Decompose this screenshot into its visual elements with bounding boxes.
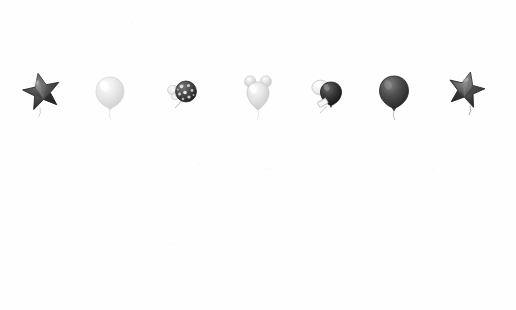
dotted-ball-body	[176, 81, 197, 102]
paper-speck	[198, 163, 200, 165]
paper-speck	[340, 267, 342, 269]
object-dotted-ball	[148, 62, 212, 122]
star-string	[469, 106, 471, 115]
balloon-dark-body	[380, 76, 409, 111]
paper-speck	[131, 22, 133, 24]
ball-string	[175, 101, 181, 108]
star-body	[20, 70, 63, 111]
paper-speck	[436, 180, 438, 182]
object-star-dark-left	[10, 62, 74, 122]
paper-speck	[73, 226, 75, 228]
paper-speck	[270, 168, 272, 170]
paper-speck	[345, 268, 347, 270]
object-paired-balloons	[293, 62, 357, 122]
balloon-knot	[108, 108, 111, 111]
object-mouse-head-balloon	[226, 62, 290, 122]
object-balloon-light	[78, 63, 142, 123]
mouse-head-body	[245, 76, 272, 110]
image-canvas	[0, 0, 516, 310]
star-body	[445, 68, 488, 109]
mouse-string	[257, 111, 259, 120]
paper-speck	[172, 243, 174, 245]
balloon-string	[109, 111, 111, 120]
star-string	[39, 108, 41, 117]
balloon-dark-knot	[392, 108, 396, 111]
object-star-dark-right	[434, 60, 498, 120]
paper-speck	[432, 168, 434, 170]
balloon-body	[96, 77, 124, 111]
object-balloon-dark	[362, 62, 426, 122]
paper-speck	[412, 300, 414, 302]
paper-speck	[266, 168, 268, 170]
balloon-dark-string	[393, 111, 395, 120]
paper-noise-layer	[0, 0, 516, 310]
paper-speck	[405, 212, 407, 214]
